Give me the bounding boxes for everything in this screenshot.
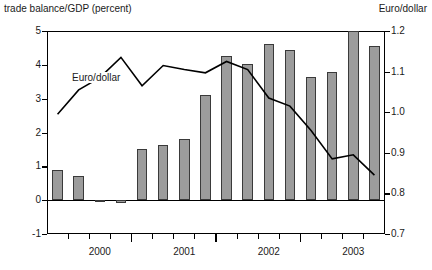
right-axis-tick-label: 0.9 xyxy=(391,148,417,158)
x-axis-minor-tick xyxy=(279,234,280,239)
left-axis-tick-label: -1 xyxy=(21,229,41,239)
right-axis-tick-mark xyxy=(385,153,390,154)
x-axis-minor-tick xyxy=(110,234,111,239)
x-axis-minor-tick xyxy=(237,234,238,239)
x-axis-minor-tick xyxy=(194,234,195,239)
x-axis-major-tick xyxy=(131,234,132,242)
right-axis-tick-mark xyxy=(385,234,390,235)
chart-container: trade balance/GDP (percent) Euro/dollar … xyxy=(0,0,432,270)
left-axis-tick-label: 3 xyxy=(21,94,41,104)
right-axis-tick-label: 1.2 xyxy=(391,26,417,36)
left-axis-tick-label: 4 xyxy=(21,60,41,70)
x-axis-minor-tick xyxy=(258,234,259,239)
x-axis-minor-tick xyxy=(363,234,364,239)
right-axis-title: Euro/dollar xyxy=(379,3,427,15)
right-axis-tick-label: 0.8 xyxy=(391,188,417,198)
right-axis-tick-label: 1.1 xyxy=(391,67,417,77)
x-axis-tick-label: 2003 xyxy=(331,246,375,257)
right-axis-tick-mark xyxy=(385,72,390,73)
series-annotation-label: Euro/dollar xyxy=(71,72,121,83)
x-axis-minor-tick xyxy=(173,234,174,239)
left-axis-tick-label: 1 xyxy=(21,161,41,171)
left-axis-tick-mark xyxy=(42,234,47,235)
right-axis-tick-mark xyxy=(385,31,390,32)
left-axis-tick-label: 0 xyxy=(21,195,41,205)
right-axis-tick-label: 0.7 xyxy=(391,229,417,239)
x-axis-tick-label: 2000 xyxy=(78,246,122,257)
x-axis-tick-label: 2002 xyxy=(247,246,291,257)
x-axis-major-tick xyxy=(300,234,301,242)
right-axis-tick-mark xyxy=(385,193,390,194)
left-axis-title: trade balance/GDP (percent) xyxy=(4,3,132,15)
x-axis-minor-tick xyxy=(342,234,343,239)
right-axis-tick-label: 1.0 xyxy=(391,107,417,117)
x-axis-minor-tick xyxy=(152,234,153,239)
x-axis-minor-tick xyxy=(68,234,69,239)
left-axis-tick-label: 2 xyxy=(21,128,41,138)
left-axis-tick-label: 5 xyxy=(21,26,41,36)
x-axis-major-tick xyxy=(215,234,216,242)
right-axis-tick-mark xyxy=(385,112,390,113)
x-axis-minor-tick xyxy=(89,234,90,239)
x-axis-minor-tick xyxy=(321,234,322,239)
euro-dollar-line-series xyxy=(47,31,385,234)
x-axis-tick-label: 2001 xyxy=(162,246,206,257)
